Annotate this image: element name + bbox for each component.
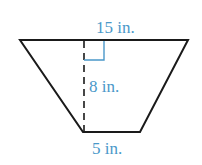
height-label: 8 in. [89,77,119,96]
bottom-base-label: 5 in. [92,139,122,158]
top-base-label: 15 in. [96,18,135,37]
right-angle-marker [84,41,104,60]
trapezoid-diagram: 15 in. 8 in. 5 in. [0,0,202,165]
